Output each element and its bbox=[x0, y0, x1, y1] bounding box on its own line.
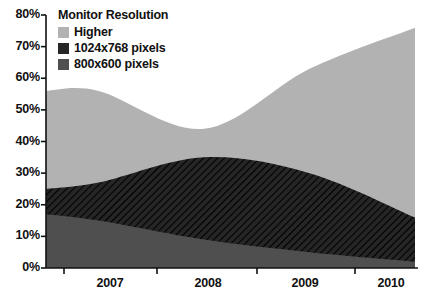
y-tick-label-60: 60% bbox=[0, 70, 40, 84]
y-tick-label-70: 70% bbox=[0, 39, 40, 53]
y-tick-label-20: 20% bbox=[0, 197, 40, 211]
legend-label-higher: Higher bbox=[74, 26, 112, 39]
y-tick-label-10: 10% bbox=[0, 228, 40, 242]
chart-legend: Monitor Resolution Higher 1024x768 pixel… bbox=[58, 8, 168, 73]
x-axis-ticks bbox=[64, 268, 355, 274]
x-tick-label-2008: 2008 bbox=[178, 276, 238, 290]
y-tick-label-40: 40% bbox=[0, 134, 40, 148]
legend-title: Monitor Resolution bbox=[58, 8, 168, 22]
x-tick-label-2010: 2010 bbox=[361, 276, 421, 290]
legend-swatch-higher bbox=[58, 27, 69, 38]
x-tick-label-2009: 2009 bbox=[275, 276, 335, 290]
legend-label-800x600: 800x600 pixels bbox=[74, 58, 159, 71]
y-tick-label-0: 0% bbox=[0, 260, 40, 274]
y-tick-label-50: 50% bbox=[0, 102, 40, 116]
legend-item-higher[interactable]: Higher bbox=[58, 25, 168, 39]
x-tick-label-2007: 2007 bbox=[80, 276, 140, 290]
legend-item-800x600[interactable]: 800x600 pixels bbox=[58, 57, 168, 71]
legend-item-1024x768[interactable]: 1024x768 pixels bbox=[58, 41, 168, 55]
legend-label-1024x768: 1024x768 pixels bbox=[74, 42, 166, 55]
legend-swatch-1024x768 bbox=[58, 43, 69, 54]
chart-screenshot: 80%70%60%50%40%30%20%10%0% 2007200820092… bbox=[0, 0, 426, 307]
legend-swatch-800x600 bbox=[58, 59, 69, 70]
y-tick-label-80: 80% bbox=[0, 7, 40, 21]
y-tick-label-30: 30% bbox=[0, 165, 40, 179]
